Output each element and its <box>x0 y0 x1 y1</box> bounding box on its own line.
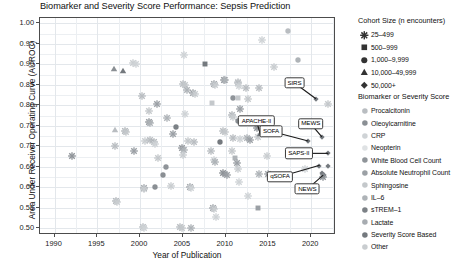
legend-item[interactable]: Oleoylcarnitine <box>358 117 450 129</box>
x-axis-label: Year of Publication <box>39 250 335 260</box>
y-axis-tick-mark <box>36 22 39 23</box>
legend-item-label: Lactate <box>371 219 393 226</box>
annotation-label-sirs: SIRS <box>284 77 305 88</box>
legend-item-label: IL–6 <box>371 194 384 201</box>
y-axis-tick-label: 0.55 <box>4 202 34 211</box>
legend-item[interactable]: 1,000–9,999 <box>358 54 445 67</box>
y-axis-tick-label: 0.95 <box>4 38 34 47</box>
swatch-icon <box>358 142 371 155</box>
legend-item-label: CRP <box>371 132 385 139</box>
x-axis-tick-mark <box>267 234 268 237</box>
swatch-icon <box>358 154 371 167</box>
legend-item[interactable]: White Blood Cell Count <box>358 154 450 166</box>
page-title: Biomarker and Severity Score Performance… <box>40 1 290 11</box>
annotation-label-saps-ii: SAPS-II <box>285 148 313 159</box>
legend-item-label: White Blood Cell Count <box>371 157 441 164</box>
legend-item[interactable]: CRP <box>358 129 450 141</box>
legend-item-label: Neopterin <box>371 144 400 151</box>
annotation-label-mews: MEWS <box>298 118 324 129</box>
legend-item-label: Other <box>371 243 388 250</box>
swatch-icon <box>358 191 371 204</box>
swatch-icon <box>358 241 371 254</box>
swatch-icon <box>358 166 371 179</box>
x-axis-tick-label: 2005 <box>174 239 190 248</box>
legend-item[interactable]: Sphingosine <box>358 179 450 191</box>
chart-figure: Biomarker and Severity Score Performance… <box>0 0 458 265</box>
diamond-icon <box>358 79 371 92</box>
legend-item-label: 50,000+ <box>371 82 396 89</box>
x-axis-tick-label: 1990 <box>45 239 61 248</box>
legend-biomarker: Biomarker or Severity Score Procalcitoni… <box>358 92 450 253</box>
y-axis-tick-mark <box>36 104 39 105</box>
y-axis-tick-mark <box>36 43 39 44</box>
legend-item[interactable]: 25–499 <box>358 29 445 42</box>
legend-item[interactable]: sTREM–1 <box>358 204 450 216</box>
swatch-icon <box>358 179 371 192</box>
swatch-icon <box>358 216 371 229</box>
y-axis-tick-mark <box>36 63 39 64</box>
x-axis-tick-mark <box>54 234 55 237</box>
y-axis-tick-label: 0.85 <box>4 79 34 88</box>
y-axis-tick-label: 0.80 <box>4 100 34 109</box>
x-axis-tick-mark <box>310 234 311 237</box>
square-icon <box>358 41 371 54</box>
y-axis-tick-mark <box>36 207 39 208</box>
legend-item[interactable]: Absolute Neutrophil Count <box>358 166 450 178</box>
legend-item-label: Severity Score Based <box>371 231 436 238</box>
legend-item-label: Oleoylcarnitine <box>371 120 416 127</box>
x-axis-tick-label: 2010 <box>216 239 232 248</box>
swatch-icon <box>358 104 371 117</box>
y-axis-tick-label: 0.75 <box>4 120 34 129</box>
swatch-icon <box>358 129 371 142</box>
x-axis-tick-mark <box>139 234 140 237</box>
triangle-icon <box>358 66 371 79</box>
annotation-label-news: NEWS <box>295 183 320 194</box>
annotation-leader-lines <box>40 18 335 234</box>
legend-item-label: 1,000–9,999 <box>371 56 409 63</box>
x-axis-tick-label: 2000 <box>131 239 147 248</box>
y-axis-tick-label: 0.70 <box>4 141 34 150</box>
y-axis-tick-mark <box>36 125 39 126</box>
legend-item[interactable]: Severity Score Based <box>358 228 450 240</box>
x-axis-tick-mark <box>96 234 97 237</box>
y-axis-tick-mark <box>36 186 39 187</box>
legend-item-label: sTREM–1 <box>371 206 401 213</box>
asterisk-icon <box>358 29 371 42</box>
legend-item[interactable]: IL–6 <box>358 191 450 203</box>
swatch-icon <box>358 228 371 241</box>
legend-item-label: 500–999 <box>371 44 397 51</box>
legend-cohort-size-title: Cohort Size (n encounters) <box>358 16 445 25</box>
swatch-icon <box>358 117 371 130</box>
y-axis-tick-mark <box>36 227 39 228</box>
y-axis-tick-label: 0.60 <box>4 182 34 191</box>
legend-item-label: 25–499 <box>371 31 394 38</box>
plot-area: SIRSAPACHE-IISOFAMEWSSAPS-IIqSOFANEWS <box>39 17 335 234</box>
x-axis-tick-label: 2020 <box>302 239 318 248</box>
legend-biomarker-title: Biomarker or Severity Score <box>358 92 450 101</box>
legend-cohort-size: Cohort Size (n encounters) 25–499500–999… <box>358 16 445 91</box>
x-axis-tick-mark <box>225 234 226 237</box>
x-axis-tick-label: 2015 <box>259 239 275 248</box>
annotation-label-sofa: SOFA <box>260 126 283 137</box>
legend-item-label: Absolute Neutrophil Count <box>371 169 450 176</box>
legend-item-label: Procalcitonin <box>371 107 410 114</box>
annotation-label-qsofa: qSOFA <box>267 171 293 182</box>
y-axis-tick-label: 0.90 <box>4 59 34 68</box>
y-axis-tick-mark <box>36 84 39 85</box>
circle-icon <box>358 54 371 67</box>
y-axis-tick-mark <box>36 166 39 167</box>
y-axis-tick-label: 0.65 <box>4 161 34 170</box>
legend-item[interactable]: Neopterin <box>358 142 450 154</box>
legend-item[interactable]: 10,000–49,999 <box>358 66 445 79</box>
legend-item[interactable]: Other <box>358 241 450 253</box>
x-axis-tick-mark <box>182 234 183 237</box>
legend-item[interactable]: Lactate <box>358 216 450 228</box>
legend-item[interactable]: 50,000+ <box>358 79 445 92</box>
legend-item[interactable]: Procalcitonin <box>358 105 450 117</box>
swatch-icon <box>358 204 371 217</box>
y-axis-tick-label: 1.00 <box>4 18 34 27</box>
x-axis-tick-label: 1995 <box>88 239 104 248</box>
y-axis-tick-mark <box>36 145 39 146</box>
legend-item-label: Sphingosine <box>371 182 408 189</box>
legend-item[interactable]: 500–999 <box>358 41 445 54</box>
